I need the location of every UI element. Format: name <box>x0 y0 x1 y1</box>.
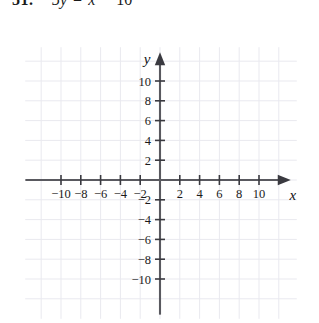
x-tick-label: −8 <box>74 187 87 201</box>
y-axis-label: y <box>142 51 151 67</box>
x-axis-label: x <box>288 187 296 203</box>
problem-number: 51. <box>12 0 34 9</box>
x-tick-label: 8 <box>236 187 242 201</box>
y-tick-label: −10 <box>131 273 151 287</box>
coordinate-grid-svg: −10−8−6−4−2246810108642−2−4−6−8−10 x y <box>0 14 319 323</box>
y-tick-label: −2 <box>138 193 151 207</box>
equation-constant: 10 <box>116 0 132 8</box>
x-tick-label: 6 <box>216 187 222 201</box>
worksheet-page: 51. 5y=x−10 −10−8−6−4−2246810108642−2−4−… <box>0 0 319 323</box>
y-tick-label: 8 <box>145 94 151 108</box>
y-tick-label: −8 <box>138 253 151 267</box>
y-tick-label: 10 <box>139 75 152 89</box>
equation-lhs: 5y <box>52 0 67 8</box>
x-tick-label: −6 <box>94 187 107 201</box>
y-tick-label: 4 <box>145 134 152 148</box>
problem-header: 51. 5y=x−10 <box>0 0 319 13</box>
y-tick-label: −4 <box>138 213 152 227</box>
equation-operator-1: = <box>67 0 88 8</box>
y-tick-label: −6 <box>138 233 151 247</box>
x-tick-label: 4 <box>196 187 203 201</box>
y-tick-label: 2 <box>145 154 151 168</box>
x-tick-label: 10 <box>253 187 266 201</box>
x-tick-label: −4 <box>114 187 128 201</box>
axis-lines <box>25 52 290 314</box>
problem-equation: 5y=x−10 <box>52 0 132 9</box>
y-tick-label: 6 <box>145 114 151 128</box>
x-tick-label: 2 <box>177 187 183 201</box>
x-tick-label: −10 <box>51 187 71 201</box>
coordinate-plane: −10−8−6−4−2246810108642−2−4−6−8−10 x y <box>0 14 319 323</box>
equation-operator-2: − <box>95 0 116 8</box>
